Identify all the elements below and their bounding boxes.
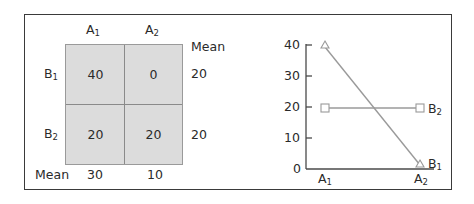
series-label-b2: B2 <box>428 102 442 119</box>
interaction-line-chart <box>0 0 474 204</box>
series-label-b1: B1 <box>428 157 442 174</box>
series-b1-line <box>325 47 420 165</box>
x-tick-a2: A2 <box>414 172 428 189</box>
x-tick-a1: A1 <box>318 172 332 189</box>
y-tick-10: 10 <box>284 131 300 145</box>
y-tick-20: 20 <box>284 100 300 114</box>
y-tick-30: 30 <box>284 69 300 83</box>
square-marker-icon <box>416 104 424 112</box>
square-marker-icon <box>321 104 329 112</box>
y-tick-40: 40 <box>284 38 300 52</box>
triangle-marker-icon <box>321 41 329 48</box>
y-tick-0: 0 <box>293 162 301 176</box>
